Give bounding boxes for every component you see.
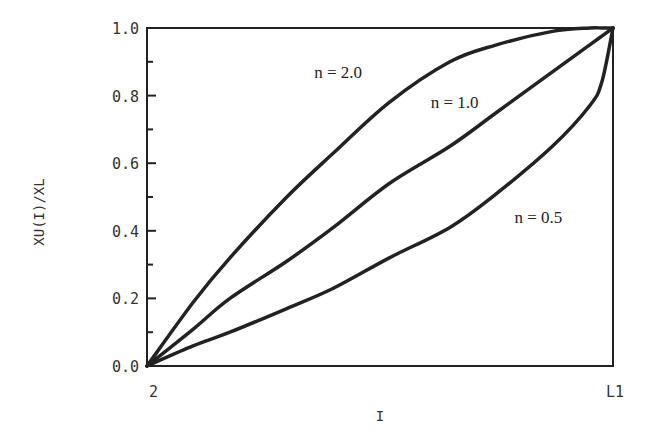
- y-tick-label: 0.8: [112, 88, 139, 106]
- curve-10: [147, 28, 613, 366]
- chart: 0.00.20.40.60.81.0 2L1 n = 2.0n = 1.0n =…: [0, 0, 646, 444]
- y-tick-label: 0.4: [112, 223, 139, 241]
- y-tick-label: 0.6: [112, 155, 139, 173]
- y-tick-label: 0.2: [112, 290, 139, 308]
- y-tick-label: 0.0: [112, 358, 139, 376]
- y-axis-title: XU(I)/XL: [31, 178, 47, 245]
- curve-label: n = 2.0: [314, 63, 362, 82]
- x-axis-tick-labels: 2L1: [149, 383, 624, 401]
- curves: [147, 28, 613, 366]
- x-axis-title: I: [376, 408, 384, 424]
- y-axis-tick-labels: 0.00.20.40.60.81.0: [112, 20, 139, 376]
- curve-label: n = 0.5: [515, 208, 563, 227]
- curve-labels: n = 2.0n = 1.0n = 0.5: [314, 63, 562, 227]
- y-axis-ticks: [147, 62, 156, 332]
- curve-label: n = 1.0: [431, 93, 479, 112]
- x-tick-label: L1: [606, 383, 624, 401]
- y-tick-label: 1.0: [112, 20, 139, 38]
- x-tick-label: 2: [149, 383, 158, 401]
